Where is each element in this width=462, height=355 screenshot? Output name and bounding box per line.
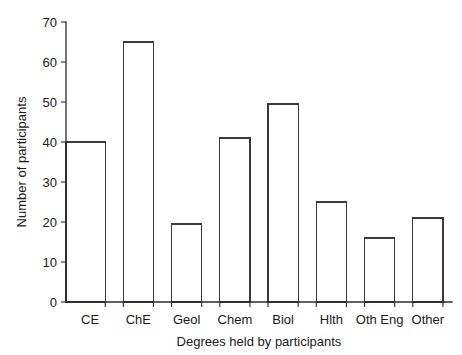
bars-group (66, 42, 443, 302)
bar-oth-eng (365, 238, 395, 302)
y-tick-label: 30 (43, 175, 57, 190)
y-tick-label: 70 (43, 15, 57, 30)
bar-chem (220, 138, 250, 302)
x-tick-label: ChE (126, 312, 152, 327)
chart-canvas: 010203040506070 CEChEGeolChemBiolHlthOth… (0, 0, 462, 355)
y-axis: 010203040506070 (43, 15, 66, 310)
y-tick-label: 40 (43, 135, 57, 150)
x-axis: CEChEGeolChemBiolHlthOth EngOther (66, 302, 452, 327)
bar-chart-figure: 010203040506070 CEChEGeolChemBiolHlthOth… (0, 0, 462, 355)
y-tick-label: 60 (43, 55, 57, 70)
bar-geol (172, 224, 202, 302)
bar-other (413, 218, 443, 302)
bar-ce (66, 142, 105, 302)
y-tick-label: 0 (50, 295, 57, 310)
y-tick-label: 50 (43, 95, 57, 110)
x-tick-label: Chem (218, 312, 253, 327)
y-tick-label: 20 (43, 215, 57, 230)
x-tick-label: Hlth (320, 312, 343, 327)
x-tick-label: CE (81, 312, 99, 327)
x-tick-label: Oth Eng (356, 312, 404, 327)
y-tick-label: 10 (43, 255, 57, 270)
x-axis-title: Degrees held by participants (177, 334, 342, 349)
x-tick-label: Geol (173, 312, 201, 327)
bar-biol (268, 104, 298, 302)
bar-hlth (316, 202, 346, 302)
y-axis-title: Number of participants (14, 96, 29, 227)
x-tick-label: Biol (272, 312, 294, 327)
bar-che (123, 42, 153, 302)
x-tick-label: Other (412, 312, 445, 327)
